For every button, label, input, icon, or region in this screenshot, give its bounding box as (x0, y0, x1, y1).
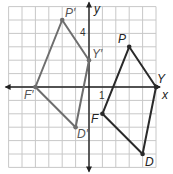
vertex-label-Y-prime: Y′ (92, 48, 102, 60)
vertex-label-Y: Y (157, 73, 165, 85)
vertex-point (127, 45, 132, 50)
vertex-label-F-prime: F′ (24, 89, 34, 101)
y-axis-arrow-down-icon (86, 166, 92, 172)
vertex-label-P-prime: P′ (65, 7, 75, 19)
vertex-point (60, 18, 65, 23)
coordinate-plane (0, 0, 173, 174)
vertex-point (100, 112, 105, 117)
y-tick-label-4: 4 (80, 28, 86, 38)
vertex-label-P: P (118, 33, 126, 45)
x-axis-label: x (162, 89, 168, 101)
y-axis-label: y (94, 3, 100, 15)
vertex-point (87, 58, 92, 63)
vertex-label-D-prime: D′ (77, 128, 88, 140)
x-tick-label-1: 1 (99, 91, 105, 101)
vertex-label-D: D (145, 156, 154, 168)
vertex-label-F: F (91, 113, 98, 125)
x-axis-arrow-left-icon (5, 84, 11, 90)
y-axis-arrow-up-icon (86, 2, 92, 8)
